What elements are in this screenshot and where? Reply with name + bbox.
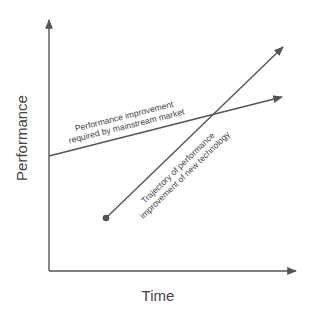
start-dot: [103, 215, 110, 222]
y-axis-label: Performance: [13, 95, 30, 181]
technology-label-line-1: Trajectory of performance: [139, 130, 217, 205]
diagram-svg: Performance improvement required by main…: [0, 0, 314, 317]
technology-label-line-2: improvement of new technology: [138, 129, 233, 221]
mainstream-label: Performance improvement required by main…: [65, 97, 186, 146]
x-axis-label: Time: [142, 287, 175, 304]
new-technology-line: [106, 47, 283, 218]
diagram-canvas: Performance improvement required by main…: [0, 0, 314, 317]
technology-label: Trajectory of performance improvement of…: [131, 122, 233, 221]
